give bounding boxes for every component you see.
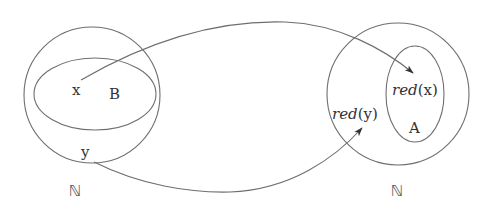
left-universe: x B y ℕ [24,27,160,200]
set-mapping-diagram: x B y ℕ red(x) A red(y) ℕ [0,0,491,210]
element-y-label: y [80,143,90,161]
subset-a-label: A [408,119,420,137]
red-y-arg: (y) [358,105,378,123]
subset-b-label: B [109,85,120,103]
left-universe-circle [24,27,160,163]
red-x-arg: (x) [418,81,438,99]
arrow-y-to-red-y [94,128,362,192]
left-naturals-label: ℕ [69,182,81,200]
red-y-label: red(y) [332,105,378,123]
red-y-func: red [332,105,358,123]
right-universe: red(x) A red(y) ℕ [327,23,469,200]
arrow-x-to-red-x [81,22,413,80]
subset-b-ellipse [34,58,156,130]
element-x-label: x [72,81,81,99]
red-x-func: red [392,81,418,99]
right-naturals-label: ℕ [391,182,403,200]
red-x-label: red(x) [392,81,438,99]
